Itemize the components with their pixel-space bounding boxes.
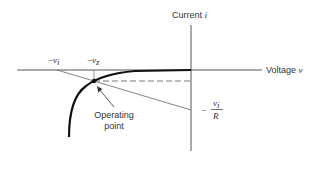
load-line bbox=[57, 70, 191, 110]
neg-vz-tick-label: −vz bbox=[87, 55, 100, 67]
operating-point-label-line2: point bbox=[104, 121, 124, 131]
current-axis-label: Current i bbox=[172, 10, 208, 20]
svg-text:vi: vi bbox=[213, 98, 220, 110]
diode-characteristic-curve bbox=[69, 70, 191, 137]
svg-text:−: − bbox=[201, 105, 206, 115]
operating-point-arrow-shaft bbox=[99, 89, 114, 107]
load-line-diagram: Current i Voltage v −vi −vz Operating po… bbox=[0, 0, 317, 170]
operating-point-dot bbox=[92, 79, 96, 83]
svg-text:R: R bbox=[212, 111, 219, 121]
neg-vi-over-r-label: − vi R bbox=[201, 98, 223, 121]
operating-point-label-line1: Operating bbox=[94, 110, 134, 120]
voltage-axis-label: Voltage v bbox=[266, 65, 303, 75]
neg-vi-tick-label: −vi bbox=[48, 55, 60, 67]
